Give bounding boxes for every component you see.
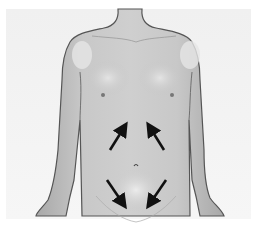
right-pectoral <box>138 60 182 96</box>
figure: Arrows indicating direction toward umbil… <box>0 0 257 237</box>
left-pectoral <box>86 60 130 96</box>
left-nipple <box>101 93 105 97</box>
right-nipple <box>170 93 174 97</box>
torso-illustration <box>0 0 257 237</box>
